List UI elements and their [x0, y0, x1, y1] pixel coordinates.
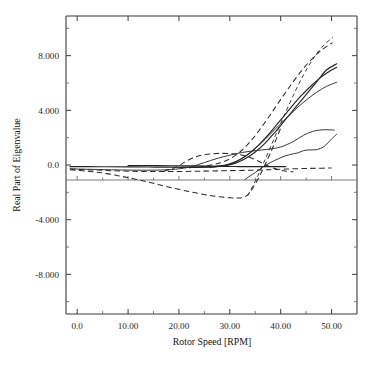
curve-branch-7-solid-plateau-upper: [70, 130, 334, 170]
curve-branch-10-dashed-hump: [164, 153, 294, 171]
curve-branch-8-solid-lower-loop: [245, 134, 337, 179]
curve-branch-4-solid-mid: [209, 82, 336, 167]
curve-branch-6-dashed-steep-from-well: [248, 37, 333, 196]
chart-svg: 0.010.0020.0030.0040.0050.00 8.0004.0000…: [0, 0, 379, 367]
y-axis-title: Real Part of Eigenvalue: [11, 118, 22, 212]
x-tick-label: 20.00: [169, 321, 190, 331]
y-tick-labels: 8.0004.0000.0-4.000-8.000: [35, 51, 59, 280]
eigenvalue-chart-figure: 0.010.0020.0030.0040.0050.00 8.0004.0000…: [0, 0, 379, 367]
curve-branch-3-dashed-steepest: [189, 43, 332, 168]
x-tick-label: 10.00: [118, 321, 139, 331]
curve-branch-1-solid-steep: [70, 64, 337, 167]
y-tick-label: 8.000: [38, 51, 59, 61]
x-tick-label: 0.0: [71, 321, 83, 331]
y-tick-label: 4.000: [38, 106, 59, 116]
x-axis-title: Rotor Speed [RPM]: [173, 336, 251, 347]
curve-branch-5-dashed-deep-well: [70, 128, 281, 198]
x-tick-label: 50.00: [321, 321, 342, 331]
y-tick-label: -4.000: [35, 215, 59, 225]
data-curves: [70, 37, 337, 198]
x-tick-label: 40.00: [270, 321, 291, 331]
x-axis-ticks: [77, 16, 331, 314]
y-tick-label: 0.0: [48, 160, 60, 170]
curve-branch-2-solid-steep-upper: [179, 67, 337, 167]
x-tick-labels: 0.010.0020.0030.0040.0050.00: [71, 321, 342, 331]
x-tick-label: 30.00: [219, 321, 240, 331]
y-tick-label: -8.000: [35, 270, 59, 280]
